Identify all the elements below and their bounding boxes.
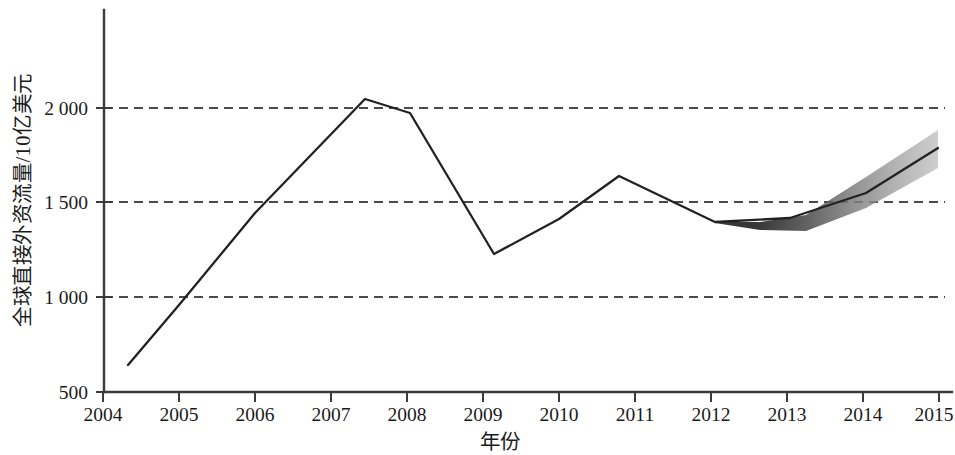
x-tick-label-2007: 2007 bbox=[312, 404, 351, 425]
x-tick-marks bbox=[103, 392, 939, 402]
x-tick-label-2013: 2013 bbox=[768, 404, 807, 425]
y-tick-label-1500: 1 500 bbox=[44, 192, 88, 213]
x-tick-label-2012: 2012 bbox=[692, 404, 731, 425]
x-tick-label-2008: 2008 bbox=[388, 404, 427, 425]
x-tick-label-2014: 2014 bbox=[844, 404, 883, 425]
axis-lines bbox=[104, 10, 952, 392]
fdi-flow-line bbox=[128, 99, 938, 365]
y-tick-label-500: 500 bbox=[59, 382, 88, 403]
x-tick-label-2010: 2010 bbox=[540, 404, 579, 425]
x-tick-label-2011: 2011 bbox=[616, 404, 654, 425]
forecast-confidence-band bbox=[715, 130, 938, 231]
forecast-band bbox=[715, 130, 938, 231]
y-axis-title: 全球直接外资流量/10亿美元 bbox=[12, 73, 34, 326]
chart-canvas: 500 1 000 1 500 2 000 2004 2005 2006 200… bbox=[0, 0, 955, 455]
y-tick-label-2000: 2 000 bbox=[44, 98, 88, 119]
x-tick-label-2006: 2006 bbox=[236, 404, 275, 425]
x-tick-label-2004: 2004 bbox=[84, 404, 123, 425]
x-axis-title: 年份 bbox=[480, 431, 520, 453]
data-series-group bbox=[128, 99, 938, 365]
y-tick-label-1000: 1 000 bbox=[44, 287, 88, 308]
x-tick-labels: 2004 2005 2006 2007 2008 2009 2010 2011 … bbox=[84, 404, 954, 425]
y-tick-labels: 500 1 000 1 500 2 000 bbox=[44, 98, 88, 403]
x-tick-label-2009: 2009 bbox=[464, 404, 503, 425]
x-tick-label-2015: 2015 bbox=[915, 404, 954, 425]
gridlines bbox=[104, 108, 945, 297]
chart-container: 500 1 000 1 500 2 000 2004 2005 2006 200… bbox=[0, 0, 955, 455]
x-tick-label-2005: 2005 bbox=[160, 404, 199, 425]
